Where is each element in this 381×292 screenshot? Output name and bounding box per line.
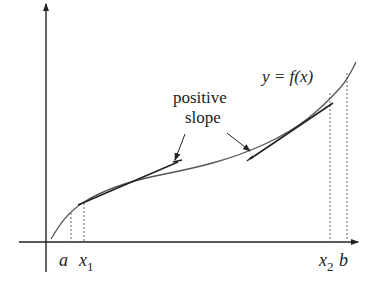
diagram-canvas — [0, 0, 381, 292]
label-b: b — [339, 250, 348, 271]
tangent-line-x1 — [78, 162, 178, 205]
label-a: a — [59, 250, 68, 271]
label-x2: x2 — [319, 250, 334, 271]
annotation-arrow-1 — [175, 134, 185, 160]
label-x1-base: x — [79, 250, 87, 270]
annotation-line-2: slope — [185, 108, 221, 128]
positive-slope-diagram: y = f(x) positive slope a x1 x2 b — [0, 0, 381, 292]
label-x1: x1 — [79, 250, 94, 271]
tangent-line-x2 — [250, 103, 333, 159]
annotation-arrow-2 — [227, 133, 250, 151]
annotation-line-1: positive — [173, 88, 227, 108]
tangent-end-tick-1 — [173, 160, 182, 162]
label-x2-base: x — [319, 250, 327, 270]
label-x1-sub: 1 — [87, 259, 94, 274]
label-x2-sub: 2 — [327, 259, 334, 274]
equation-label: y = f(x) — [262, 67, 313, 87]
